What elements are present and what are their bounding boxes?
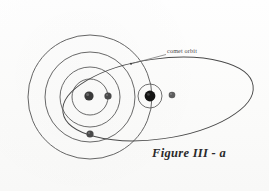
body-planet-3-highlight [147,93,150,96]
body-planet-3 [145,91,156,102]
body-planet-4-highlight [170,93,172,95]
comet-orbit-label: comet orbit [167,47,197,54]
figure-caption: Figure III - a [152,146,226,161]
body-planet-4 [169,92,176,99]
annotation-leader-endpoint [130,63,132,65]
body-sun-highlight [86,93,89,96]
solar-system-diagram [0,0,269,191]
body-planet-2 [86,130,93,137]
figure-page: comet orbit Figure III - a [0,0,269,191]
body-planet-2-highlight [88,132,90,134]
body-sun [84,91,93,100]
body-planet-1-highlight [106,94,108,96]
body-planet-1 [104,92,111,99]
